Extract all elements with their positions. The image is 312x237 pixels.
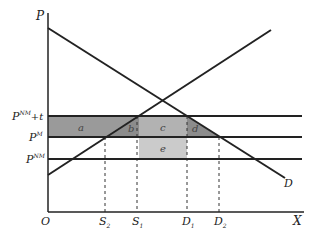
region-label-d: d	[192, 123, 198, 134]
origin-label: O	[41, 215, 50, 228]
tariff-diagram: P X O D PNM+t PM PNM S2 S1 D1 D2 a b c d…	[0, 0, 312, 237]
region-label-a: a	[78, 122, 84, 133]
quantity-label-s1: S1	[132, 215, 143, 229]
y-axis-label: P	[35, 9, 45, 23]
demand-label: D	[283, 177, 293, 190]
region-label-c: c	[160, 122, 166, 133]
region-label-e: e	[160, 143, 166, 154]
price-label-pnm-plus-t: PNM+t	[11, 109, 44, 123]
price-label-pm: PM	[28, 130, 43, 144]
quantity-label-d1: D1	[181, 215, 195, 229]
region-label-b: b	[128, 123, 134, 134]
x-axis-label: X	[292, 214, 302, 228]
quantity-label-d2: D2	[213, 215, 227, 229]
quantity-label-s2: S2	[99, 215, 111, 229]
price-label-pnm: PNM	[25, 152, 46, 166]
